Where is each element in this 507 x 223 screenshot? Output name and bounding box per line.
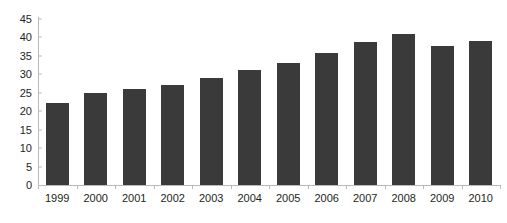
bar[interactable]: [161, 85, 184, 185]
y-axis-tick-label: 25: [20, 87, 38, 98]
x-axis-tick-mark: [77, 185, 78, 189]
x-axis-category-label: 2010: [462, 193, 501, 204]
x-axis-category-label: 2008: [385, 193, 424, 204]
y-axis-tick-label: 35: [20, 50, 38, 61]
y-axis-tick-label: 45: [20, 14, 38, 25]
bar-slot: [346, 19, 385, 185]
x-axis-category-label: 2001: [115, 193, 154, 204]
x-axis-tick-mark: [423, 185, 424, 189]
x-axis-category-label: 2006: [308, 193, 347, 204]
x-axis-tick-mark: [192, 185, 193, 189]
x-axis-tick-mark: [38, 185, 39, 189]
x-axis-tick-mark: [154, 185, 155, 189]
x-axis-category-label: 2002: [154, 193, 193, 204]
y-axis-tick-label: 15: [20, 124, 38, 135]
x-axis-tick-mark: [500, 185, 501, 189]
bar-slot: [269, 19, 308, 185]
bar[interactable]: [392, 34, 415, 185]
bar[interactable]: [200, 78, 223, 185]
x-axis-category-label: 2000: [77, 193, 116, 204]
bar-slot: [192, 19, 231, 185]
bar-chart: 051015202530354045 199920002001200220032…: [0, 0, 507, 223]
x-axis-tick-mark: [462, 185, 463, 189]
y-axis-tick-label: 5: [26, 161, 38, 172]
x-axis-category-label: 1999: [38, 193, 77, 204]
bar-slot: [231, 19, 270, 185]
bar-slot: [385, 19, 424, 185]
bar-slot: [154, 19, 193, 185]
y-axis-tick-label: 10: [20, 143, 38, 154]
bar[interactable]: [123, 89, 146, 185]
x-axis-tick-mark: [346, 185, 347, 189]
x-axis-tick-mark: [308, 185, 309, 189]
bar-slot: [423, 19, 462, 185]
bar[interactable]: [84, 93, 107, 185]
x-axis-category-label: 2007: [346, 193, 385, 204]
bar[interactable]: [315, 53, 338, 185]
x-axis-tick-mark: [269, 185, 270, 189]
bar[interactable]: [469, 41, 492, 185]
x-axis-category-label: 2004: [231, 193, 270, 204]
bar[interactable]: [277, 63, 300, 185]
x-axis-tick-mark: [385, 185, 386, 189]
y-axis-tick-label: 30: [20, 69, 38, 80]
x-axis-category-label: 2003: [192, 193, 231, 204]
bar-slot: [77, 19, 116, 185]
x-axis-tick-mark: [231, 185, 232, 189]
bar-slot: [115, 19, 154, 185]
x-axis-category-label: 2005: [269, 193, 308, 204]
bar-slot: [38, 19, 77, 185]
bar-slot: [308, 19, 347, 185]
bar[interactable]: [238, 70, 261, 185]
y-axis-tick-label: 0: [26, 180, 38, 191]
x-axis-category-label: 2009: [423, 193, 462, 204]
bar[interactable]: [46, 103, 69, 185]
bar-slot: [462, 19, 501, 185]
y-axis-tick-label: 20: [20, 106, 38, 117]
x-axis-tick-mark: [115, 185, 116, 189]
bar[interactable]: [431, 46, 454, 185]
y-axis-tick-label: 40: [20, 32, 38, 43]
bar[interactable]: [354, 42, 377, 185]
plot-area: [38, 19, 500, 185]
